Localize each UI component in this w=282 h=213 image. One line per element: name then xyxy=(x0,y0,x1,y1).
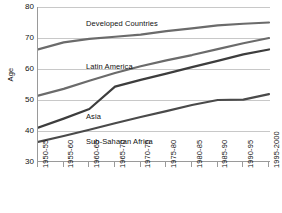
y-axis-tick-labels: 80 70 60 50 40 30 xyxy=(8,0,34,213)
plot-area: Developed Countries Latin America Asia S… xyxy=(37,7,270,162)
x-tick-label: 1965-70 xyxy=(118,140,127,168)
x-axis-tick xyxy=(268,162,269,167)
x-axis-tick xyxy=(63,162,64,167)
y-tick-label: 50 xyxy=(12,96,34,104)
y-tick-label: 80 xyxy=(12,3,34,11)
x-tick-label: 1980-85 xyxy=(195,140,204,168)
x-tick-label: 1960-65 xyxy=(92,140,101,168)
series-lines xyxy=(38,7,271,162)
x-axis-tick xyxy=(88,162,89,167)
x-axis-tick xyxy=(37,162,38,167)
y-tick-label: 30 xyxy=(12,158,34,166)
series-label-asia: Asia xyxy=(86,112,101,121)
x-tick-label: 1975-80 xyxy=(169,140,178,168)
x-tick-label: 1970-75 xyxy=(143,140,152,168)
x-tick-label: 1985-90 xyxy=(220,140,229,168)
x-axis-tick xyxy=(217,162,218,167)
life-expectancy-line-chart: Age 80 70 60 50 40 30 Developed Countrie… xyxy=(0,0,282,213)
x-tick-label: 1990-95 xyxy=(246,140,255,168)
series-label-developed-countries: Developed Countries xyxy=(86,19,158,28)
x-tick-label: 1995-2000 xyxy=(272,131,281,168)
x-axis-tick xyxy=(140,162,141,167)
x-axis-tick xyxy=(165,162,166,167)
y-tick-label: 70 xyxy=(12,34,34,42)
series-line-latin-america xyxy=(38,38,269,96)
x-tick-label: 1950-55 xyxy=(41,140,50,168)
y-tick-label: 40 xyxy=(12,127,34,135)
x-axis-tick xyxy=(242,162,243,167)
x-axis-tick xyxy=(114,162,115,167)
x-tick-label: 1955-60 xyxy=(66,140,75,168)
series-label-latin-america: Latin America xyxy=(86,62,133,71)
series-line-sub-saharan-africa xyxy=(38,94,269,142)
x-axis-tick xyxy=(191,162,192,167)
x-axis-tick-labels: 1950-551955-601960-651965-701970-751975-… xyxy=(37,168,270,213)
y-tick-label: 60 xyxy=(12,65,34,73)
series-line-asia xyxy=(38,49,269,127)
